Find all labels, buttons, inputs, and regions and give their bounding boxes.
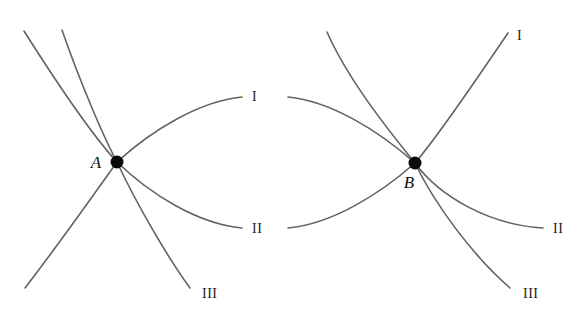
curve-left-upper-inner [62, 30, 117, 162]
curve-right-upper-outer [288, 97, 415, 163]
vertex-label-b: B [404, 173, 415, 192]
curve-left-branch-ii [117, 162, 242, 228]
vertex-dot-a [111, 156, 124, 169]
curve-right-lower-outer [288, 163, 415, 228]
branch-label-left-iii: III [202, 286, 218, 301]
curve-right-branch-i [415, 33, 508, 163]
vertex-dot-b [409, 157, 422, 170]
branching-diagram-figure: A B I II III I II III [0, 0, 585, 313]
curve-right-incoming [327, 32, 415, 163]
branch-label-right-ii: II [553, 221, 563, 236]
branch-label-left-ii: II [252, 221, 262, 236]
diagram-canvas: A B I II III I II III [0, 0, 585, 313]
branch-label-right-i: I [517, 28, 522, 43]
vertex-label-a: A [90, 153, 102, 172]
curve-left-branch-iii [117, 162, 190, 288]
curve-left-branch-i [117, 97, 242, 162]
branch-label-left-i: I [252, 89, 257, 104]
curve-right-branch-ii [415, 163, 543, 228]
curve-right-branch-iii [415, 163, 510, 288]
branch-label-right-iii: III [523, 286, 539, 301]
curve-left-upper-outer [24, 31, 117, 162]
curve-left-lower-outer [25, 162, 117, 288]
